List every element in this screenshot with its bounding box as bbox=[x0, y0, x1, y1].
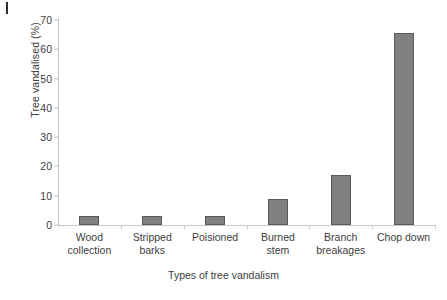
x-axis-tick-mark bbox=[309, 225, 310, 229]
y-axis-tick-mark bbox=[54, 195, 58, 196]
y-axis-tick-mark bbox=[54, 20, 58, 21]
bar-poisioned bbox=[205, 216, 225, 225]
bar-chop-down bbox=[394, 33, 414, 225]
category-label-line: breakages bbox=[297, 244, 385, 257]
bar-chart-figure: Tree vandalised (%) 010203040506070 Type… bbox=[0, 0, 447, 300]
y-axis-tick-label: 0 bbox=[12, 219, 52, 231]
x-axis-tick-mark bbox=[121, 225, 122, 229]
x-axis-tick-mark bbox=[184, 225, 185, 229]
category-label-line: Chop down bbox=[360, 231, 447, 244]
bar-burned-stem bbox=[268, 199, 288, 225]
y-axis-tick-mark bbox=[54, 137, 58, 138]
bar-wood-collection bbox=[79, 216, 99, 225]
bar-branch-breakages bbox=[331, 175, 351, 225]
y-axis-tick-label: 40 bbox=[12, 102, 52, 114]
y-axis-tick-label: 30 bbox=[12, 131, 52, 143]
y-axis-tick-mark bbox=[54, 107, 58, 108]
y-axis-tick-mark bbox=[54, 225, 58, 226]
y-axis-tick-label: 20 bbox=[12, 160, 52, 172]
y-axis-tick-label: 70 bbox=[12, 14, 52, 26]
y-axis-tick-label: 50 bbox=[12, 73, 52, 85]
y-axis-tick-mark bbox=[54, 166, 58, 167]
x-axis-tick-mark bbox=[435, 225, 436, 229]
y-axis-tick-label: 10 bbox=[12, 190, 52, 202]
x-axis-title: Types of tree vandalism bbox=[0, 269, 447, 281]
x-axis-tick-mark bbox=[247, 225, 248, 229]
x-axis-tick-mark bbox=[372, 225, 373, 229]
y-axis-tick-mark bbox=[54, 49, 58, 50]
y-axis-tick-mark bbox=[54, 78, 58, 79]
y-axis-tick-label: 60 bbox=[12, 43, 52, 55]
category-label-line: barks bbox=[108, 244, 196, 257]
x-axis-category-label: Chop down bbox=[360, 231, 447, 244]
plot-area: 010203040506070 bbox=[58, 20, 435, 225]
bar-stripped-barks bbox=[142, 216, 162, 225]
